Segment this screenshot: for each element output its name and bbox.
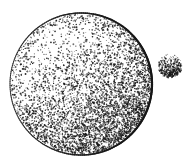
figure-container: Stippled circular particle distributions…: [0, 0, 191, 166]
stipple-illustration-canvas: [0, 0, 191, 166]
